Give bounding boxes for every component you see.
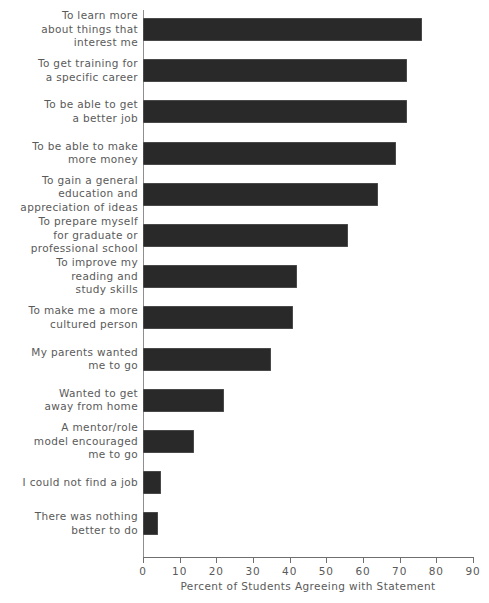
bar-fill: [143, 18, 422, 41]
x-tick-label: 70: [380, 565, 420, 577]
x-tick-label: 80: [416, 565, 456, 577]
bar-fill: [143, 389, 224, 412]
x-tick: [436, 557, 437, 563]
x-tick-label: 20: [196, 565, 236, 577]
x-tick: [253, 557, 254, 563]
bar: [143, 306, 293, 329]
bar: [143, 142, 396, 165]
x-tick: [473, 557, 474, 563]
bars-layer: [0, 0, 489, 603]
x-tick-label: 90: [453, 565, 489, 577]
bar-fill: [143, 224, 348, 247]
bar-fill: [143, 265, 297, 288]
bar-fill: [143, 142, 396, 165]
x-tick-label: 50: [306, 565, 346, 577]
x-tick: [290, 557, 291, 563]
x-tick: [180, 557, 181, 563]
bar: [143, 348, 271, 371]
bar: [143, 183, 378, 206]
bar: [143, 265, 297, 288]
bar-fill: [143, 306, 293, 329]
x-tick: [400, 557, 401, 563]
horizontal-bar-chart: To learn more about things that interest…: [0, 0, 489, 603]
bar: [143, 512, 158, 535]
bar-fill: [143, 471, 161, 494]
x-tick: [143, 557, 144, 563]
bar-fill: [143, 430, 194, 453]
bar: [143, 18, 422, 41]
x-tick-label: 10: [160, 565, 200, 577]
bar: [143, 100, 407, 123]
bar: [143, 471, 161, 494]
bar: [143, 430, 194, 453]
bar-fill: [143, 100, 407, 123]
x-tick: [326, 557, 327, 563]
bar-fill: [143, 183, 378, 206]
bar-fill: [143, 512, 158, 535]
x-tick-label: 40: [270, 565, 310, 577]
x-tick-label: 30: [233, 565, 273, 577]
bar: [143, 389, 224, 412]
x-tick: [216, 557, 217, 563]
x-axis-title: Percent of Students Agreeing with Statem…: [143, 580, 473, 592]
bar: [143, 224, 348, 247]
bar-fill: [143, 59, 407, 82]
x-tick-label: 0: [123, 565, 163, 577]
bar-fill: [143, 348, 271, 371]
bar: [143, 59, 407, 82]
x-tick: [363, 557, 364, 563]
x-tick-label: 60: [343, 565, 383, 577]
